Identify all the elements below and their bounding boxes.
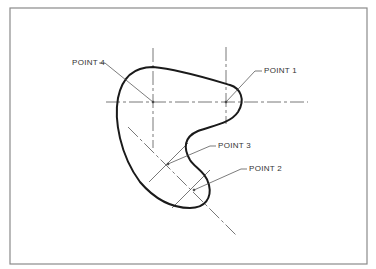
label-point2: POINT 2 (249, 164, 282, 174)
center-mark-point2 (193, 189, 195, 191)
center-mark-point4 (152, 101, 154, 103)
drawing-canvas (0, 0, 376, 269)
label-point1: POINT 1 (264, 66, 297, 76)
center-mark-point3 (167, 163, 169, 165)
label-point4: POINT 4 (72, 58, 105, 68)
drawing-border (10, 8, 367, 264)
label-point3: POINT 3 (218, 141, 251, 151)
center-mark-point1 (225, 101, 227, 103)
leader-point4 (99, 63, 153, 102)
perp-centerline-point3 (149, 143, 188, 182)
